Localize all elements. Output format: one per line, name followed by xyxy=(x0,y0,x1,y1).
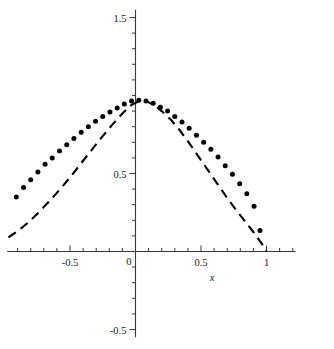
scatter-line-chart: -0.500.51-0.50.51.5 x xyxy=(0,0,334,349)
data-point xyxy=(86,124,91,129)
data-point xyxy=(129,98,134,103)
data-point xyxy=(158,105,163,110)
data-point xyxy=(28,177,33,182)
data-point xyxy=(122,102,127,107)
y-tick-label: 1.5 xyxy=(113,13,126,24)
data-point xyxy=(100,114,105,119)
x-tick-label: -0.5 xyxy=(62,257,79,268)
data-point xyxy=(216,155,221,160)
y-tick-label: -0.5 xyxy=(110,325,127,336)
data-point xyxy=(43,162,48,167)
data-point xyxy=(172,114,177,119)
data-point xyxy=(57,148,62,153)
data-point xyxy=(143,98,148,103)
data-point xyxy=(180,120,185,125)
data-point xyxy=(208,147,213,152)
data-point xyxy=(257,228,262,233)
x-tick-label: 0.5 xyxy=(194,257,207,268)
data-point xyxy=(107,109,112,114)
y-tick-label: 0.5 xyxy=(113,169,126,180)
data-point xyxy=(252,204,257,209)
data-point xyxy=(201,140,206,145)
data-point xyxy=(151,101,156,106)
data-point xyxy=(115,105,120,110)
data-point xyxy=(21,185,26,190)
data-point xyxy=(230,172,235,177)
data-point xyxy=(64,142,69,147)
x-tick-label: 1 xyxy=(264,257,269,268)
x-axis-label: x xyxy=(209,272,215,283)
data-point xyxy=(244,191,249,196)
data-point xyxy=(165,109,170,114)
data-point xyxy=(14,194,19,199)
data-point xyxy=(194,133,199,138)
data-point xyxy=(93,119,98,124)
data-point xyxy=(71,136,76,141)
data-point xyxy=(50,155,55,160)
data-point xyxy=(223,163,228,168)
x-tick-label: 0 xyxy=(126,256,131,267)
data-point xyxy=(136,98,141,103)
data-point xyxy=(237,181,242,186)
data-point xyxy=(187,126,192,131)
chart-canvas: -0.500.51-0.50.51.5 x xyxy=(0,0,334,349)
data-point xyxy=(35,169,40,174)
chart-background xyxy=(0,0,334,349)
data-point xyxy=(79,130,84,135)
